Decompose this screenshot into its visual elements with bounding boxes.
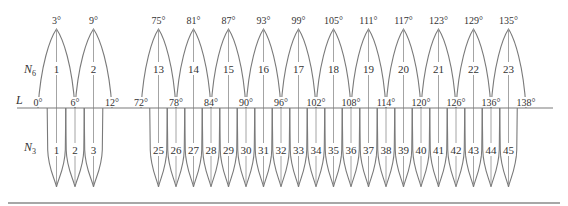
upper-petal: 87°15	[211, 15, 246, 108]
base-degree-label: 0°	[34, 97, 43, 108]
lower-petal: 40	[412, 108, 430, 187]
lower-petal-number: 39	[398, 144, 410, 156]
upper-petal-number: 17	[293, 63, 305, 75]
lower-petal-number: 36	[346, 144, 358, 156]
lower-petal: 35	[325, 108, 343, 187]
lower-petal-number: 37	[363, 144, 375, 156]
lower-petal-number: 33	[293, 144, 305, 156]
upper-petal-number: 23	[503, 63, 515, 75]
upper-petal-number: 2	[91, 63, 97, 75]
lower-petal-number: 25	[153, 144, 165, 156]
peak-degree-label: 111°	[359, 15, 377, 26]
lower-petal: 37	[360, 108, 378, 187]
peak-degree-label: 93°	[257, 15, 271, 26]
base-degree-label: 136°	[482, 97, 501, 108]
lower-petal: 42	[447, 108, 465, 187]
lower-petal-number: 3	[91, 144, 97, 156]
upper-petal-row: 3°19°275°1381°1487°1593°1699°17105°18111…	[38, 15, 526, 108]
upper-petal-number: 13	[153, 63, 165, 75]
base-degree-label: 12°	[105, 97, 119, 108]
lower-petal-number: 42	[451, 144, 462, 156]
lower-petal-number: 35	[328, 144, 340, 156]
lower-petal: 25	[150, 108, 168, 187]
peak-degree-label: 123°	[429, 15, 448, 26]
lower-petal-number: 45	[503, 144, 515, 156]
lower-petal: 39	[395, 108, 413, 187]
upper-petal-number: 1	[54, 63, 60, 75]
peak-degree-label: 3°	[52, 15, 61, 26]
peak-degree-label: 81°	[187, 15, 201, 26]
base-degree-label: 126°	[447, 97, 466, 108]
lower-petal: 27	[185, 108, 203, 187]
upper-petal-number: 16	[258, 63, 270, 75]
upper-petal: 93°16	[246, 15, 281, 108]
lower-petal: 34	[307, 108, 325, 187]
upper-petal: 123°21	[421, 15, 456, 108]
upper-petal: 81°14	[176, 15, 211, 108]
lower-petal: 33	[290, 108, 308, 187]
lower-petal: 32	[272, 108, 290, 187]
petal-diagram: 3°19°275°1381°1487°1593°1699°17105°18111…	[0, 0, 568, 206]
upper-row-label: N6	[23, 62, 36, 78]
base-degree-label: 108°	[342, 97, 361, 108]
base-degree-label: 84°	[204, 97, 218, 108]
base-degree-label: 78°	[169, 97, 183, 108]
lower-petal: 1	[47, 108, 66, 187]
base-degree-label: 72°	[134, 97, 148, 108]
upper-petal-number: 18	[328, 63, 340, 75]
peak-degree-label: 75°	[152, 15, 166, 26]
lower-row-label: N3	[23, 140, 36, 156]
lower-petal-number: 31	[258, 144, 269, 156]
peak-degree-label: 135°	[499, 15, 518, 26]
upper-petal: 111°19	[351, 15, 386, 108]
lower-petal-number: 2	[72, 144, 78, 156]
lower-petal: 30	[237, 108, 255, 187]
base-degree-label: 90°	[239, 97, 253, 108]
upper-petal-number: 15	[223, 63, 235, 75]
upper-petal: 9°2	[75, 15, 112, 108]
base-degree-label: 138°	[517, 97, 536, 108]
upper-petal: 105°18	[316, 15, 351, 108]
base-degree-label: 96°	[274, 97, 288, 108]
upper-petal-number: 20	[398, 63, 410, 75]
lower-petal: 2	[66, 108, 85, 187]
upper-petal: 129°22	[456, 15, 491, 108]
base-degree-label: 114°	[377, 97, 396, 108]
upper-petal-number: 21	[433, 63, 444, 75]
lower-petal: 31	[255, 108, 273, 187]
upper-petal: 3°1	[38, 15, 75, 108]
peak-degree-label: 129°	[464, 15, 483, 26]
peak-degree-label: 117°	[394, 15, 413, 26]
base-degree-label: 120°	[412, 97, 431, 108]
lower-petal-number: 28	[206, 144, 218, 156]
base-degree-label: 6°	[71, 97, 80, 108]
lower-petal-number: 44	[486, 144, 498, 156]
lower-petal: 36	[342, 108, 360, 187]
lower-petal-number: 29	[223, 144, 235, 156]
lower-petal-number: 26	[171, 144, 183, 156]
upper-petal: 99°17	[281, 15, 316, 108]
lower-petal: 44	[482, 108, 500, 187]
lower-petal: 26	[167, 108, 185, 187]
lower-petal-number: 43	[468, 144, 480, 156]
lower-petal: 29	[220, 108, 238, 187]
upper-petal-number: 22	[468, 63, 479, 75]
upper-petal-number: 19	[363, 63, 375, 75]
axis-label: L	[15, 93, 23, 107]
upper-petal: 117°20	[386, 15, 421, 108]
lower-petal: 38	[377, 108, 395, 187]
lower-petal: 28	[202, 108, 220, 187]
diagram-canvas: 3°19°275°1381°1487°1593°1699°17105°18111…	[0, 0, 568, 206]
lower-petal-number: 34	[311, 144, 323, 156]
lower-petal-number: 27	[188, 144, 200, 156]
upper-petal-number: 14	[188, 63, 200, 75]
base-degree-labels: 0°6°12°72°78°84°90°96°102°108°114°120°12…	[27, 97, 537, 108]
lower-petal: 43	[465, 108, 483, 187]
peak-degree-label: 87°	[222, 15, 236, 26]
lower-petal-number: 32	[276, 144, 287, 156]
upper-petal: 135°23	[491, 15, 526, 108]
lower-petal-row: 1232526272829303132333435363738394041424…	[47, 108, 517, 187]
peak-degree-label: 99°	[292, 15, 306, 26]
lower-petal-number: 1	[54, 144, 60, 156]
lower-petal-number: 41	[433, 144, 444, 156]
